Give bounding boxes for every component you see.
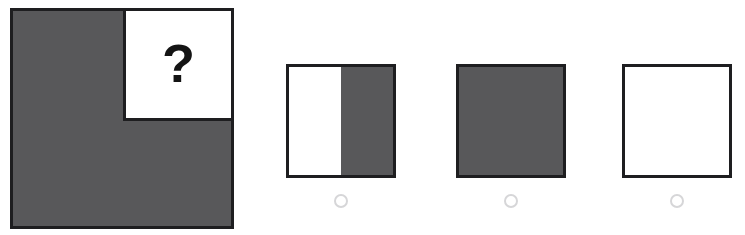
option-2-radio-row[interactable] [456, 194, 566, 208]
answer-option-1[interactable] [286, 64, 396, 178]
radio-button-icon[interactable] [504, 194, 518, 208]
answer-option-3[interactable] [622, 64, 732, 178]
option-2-figure[interactable] [456, 64, 566, 178]
option-1-radio-row[interactable] [286, 194, 396, 208]
option-3-radio-row[interactable] [622, 194, 732, 208]
prompt-inset-square: ? [123, 8, 234, 121]
question-mark: ? [162, 36, 195, 90]
prompt-figure: ? [10, 8, 234, 229]
option-3-figure[interactable] [622, 64, 732, 178]
puzzle-stage: ? [0, 0, 745, 235]
answer-option-2[interactable] [456, 64, 566, 178]
radio-button-icon[interactable] [670, 194, 684, 208]
radio-button-icon[interactable] [334, 194, 348, 208]
option-1-figure[interactable] [286, 64, 396, 178]
option-1-gray-half [341, 67, 393, 175]
